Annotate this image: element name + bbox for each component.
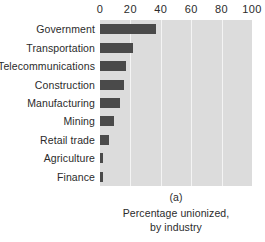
category-label-row: Construction xyxy=(0,75,95,93)
category-axis-labels: GovernmentTransportationTelecommunicatio… xyxy=(0,20,95,186)
category-label-row: Retail trade xyxy=(0,131,95,149)
x-tick-label: 100 xyxy=(242,2,262,16)
cropped-text-sliver xyxy=(0,236,265,242)
category-label-row: Government xyxy=(0,20,95,38)
x-tick-label: 0 xyxy=(97,2,104,16)
category-label: Telecommunications xyxy=(0,60,95,72)
category-label-row: Mining xyxy=(0,112,95,130)
bar-row xyxy=(100,57,252,75)
bar xyxy=(100,61,126,71)
x-axis-tick-labels: 020406080100 xyxy=(100,2,252,18)
bar-row xyxy=(100,20,252,38)
figure-caption: (a) Percentage unionized, by industry xyxy=(100,190,252,234)
plot-area xyxy=(100,20,252,186)
bar-row xyxy=(100,149,252,167)
bar xyxy=(100,153,103,163)
category-label: Finance xyxy=(57,171,95,183)
bar-row xyxy=(100,168,252,186)
category-label: Construction xyxy=(35,79,95,91)
bar-row xyxy=(100,131,252,149)
category-label: Transportation xyxy=(26,42,95,54)
category-label-row: Manufacturing xyxy=(0,94,95,112)
category-label-row: Agriculture xyxy=(0,149,95,167)
bar xyxy=(100,98,120,108)
bar-row xyxy=(100,75,252,93)
bar xyxy=(100,172,103,182)
x-tick-label: 60 xyxy=(185,2,198,16)
caption-index: (a) xyxy=(100,190,252,204)
category-label-row: Finance xyxy=(0,168,95,186)
category-label: Government xyxy=(36,23,95,35)
bar-series xyxy=(100,20,252,186)
bar xyxy=(100,24,156,34)
bar-row xyxy=(100,112,252,130)
caption-line-2: by industry xyxy=(100,220,252,234)
category-label-row: Transportation xyxy=(0,38,95,56)
bar xyxy=(100,43,133,53)
x-tick-label: 40 xyxy=(154,2,167,16)
category-label: Manufacturing xyxy=(27,97,95,109)
caption-line-1: Percentage unionized, xyxy=(100,206,252,220)
category-label: Retail trade xyxy=(40,134,95,146)
category-label: Agriculture xyxy=(44,152,95,164)
x-tick-label: 20 xyxy=(124,2,137,16)
bar-row xyxy=(100,38,252,56)
bar xyxy=(100,116,114,126)
bar xyxy=(100,135,109,145)
category-label: Mining xyxy=(63,115,95,127)
x-tick-label: 80 xyxy=(215,2,228,16)
category-label-row: Telecommunications xyxy=(0,57,95,75)
bar xyxy=(100,80,124,90)
bar-chart-figure: 020406080100 GovernmentTransportationTel… xyxy=(0,0,265,242)
bar-row xyxy=(100,94,252,112)
